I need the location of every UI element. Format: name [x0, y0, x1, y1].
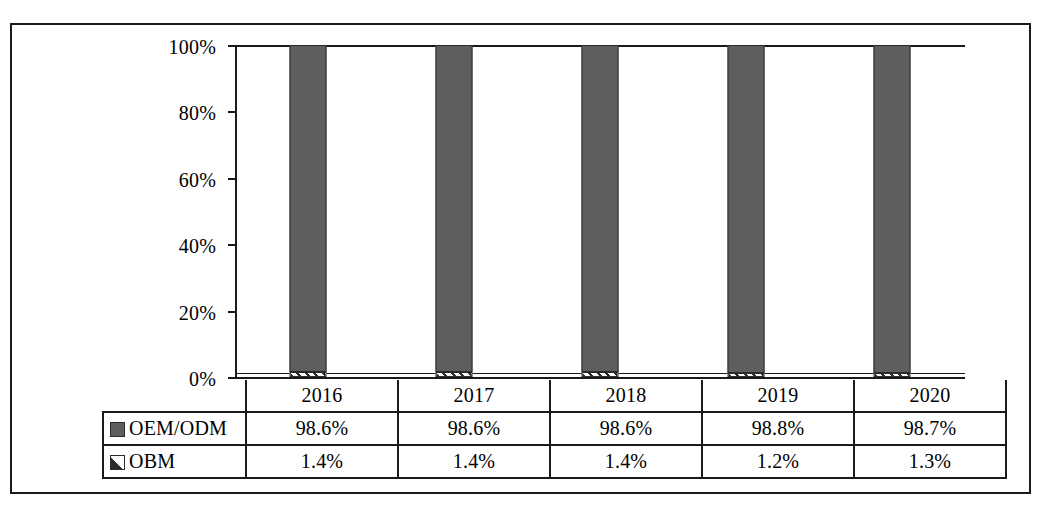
legend-label-oem-odm: OEM/ODM [129, 417, 227, 439]
table-corner-cell [103, 380, 246, 412]
y-tick-label-40: 40% [179, 236, 216, 256]
y-tick-label-60: 60% [179, 170, 216, 190]
legend-item-oem-odm[interactable]: OEM/ODM [103, 412, 246, 445]
bar-stack [436, 45, 473, 377]
cell-oem-2018: 98.6% [550, 412, 702, 445]
cell-oem-2017: 98.6% [398, 412, 550, 445]
bar-stack [874, 45, 911, 377]
y-tick-60: 60% [228, 178, 235, 180]
chart-frame: 100% 80% 60% 40% 20% 0% 2016 2017 2 [10, 23, 1031, 494]
table-year-header-2019: 2019 [702, 380, 854, 412]
plot-area: 100% 80% 60% 40% 20% 0% [235, 45, 965, 377]
bar-column-2020[interactable] [819, 45, 965, 377]
cell-oem-2016: 98.6% [246, 412, 398, 445]
table-row-years: 2016 2017 2018 2019 2020 [103, 380, 1006, 412]
bar-column-2018[interactable] [527, 45, 673, 377]
cell-oem-2020: 98.7% [854, 412, 1006, 445]
bar-segment-oem-odm[interactable] [582, 45, 619, 372]
bar-segment-obm[interactable] [728, 373, 765, 377]
table-row-oem-odm: OEM/ODM 98.6% 98.6% 98.6% 98.8% 98.7% [103, 412, 1006, 445]
cell-obm-2017: 1.4% [398, 445, 550, 478]
y-tick-0: 0% [228, 377, 235, 379]
y-tick-label-100: 100% [169, 37, 216, 57]
legend-item-obm[interactable]: OBM [103, 445, 246, 478]
bar-segment-obm[interactable] [582, 372, 619, 377]
table-year-header-2016: 2016 [246, 380, 398, 412]
bar-segment-oem-odm[interactable] [728, 45, 765, 373]
bar-column-2016[interactable] [235, 45, 381, 377]
bar-stack [728, 45, 765, 377]
cell-obm-2020: 1.3% [854, 445, 1006, 478]
legend-swatch-oem-odm-icon [110, 422, 125, 437]
bar-segment-obm[interactable] [436, 372, 473, 377]
chart-data-table: 2016 2017 2018 2019 2020 OEM/ODM 98.6% 9… [102, 380, 1007, 479]
y-tick-80: 80% [228, 111, 235, 113]
category-axis-line [235, 377, 965, 379]
y-tick-20: 20% [228, 311, 235, 313]
cell-obm-2018: 1.4% [550, 445, 702, 478]
table-year-header-2020: 2020 [854, 380, 1006, 412]
y-tick-40: 40% [228, 244, 235, 246]
cell-obm-2016: 1.4% [246, 445, 398, 478]
bar-column-2019[interactable] [673, 45, 819, 377]
legend-label-obm: OBM [129, 450, 175, 472]
cell-obm-2019: 1.2% [702, 445, 854, 478]
table-year-header-2017: 2017 [398, 380, 550, 412]
y-tick-label-80: 80% [179, 103, 216, 123]
bar-segment-obm[interactable] [874, 373, 911, 377]
legend-swatch-obm-icon [110, 455, 125, 470]
table-year-header-2018: 2018 [550, 380, 702, 412]
bar-stack [290, 45, 327, 377]
bar-stack [582, 45, 619, 377]
y-tick-100: 100% [228, 45, 235, 47]
bar-segment-oem-odm[interactable] [436, 45, 473, 372]
bar-column-2017[interactable] [381, 45, 527, 377]
bar-segment-obm[interactable] [290, 372, 327, 377]
y-tick-label-20: 20% [179, 303, 216, 323]
table-row-obm: OBM 1.4% 1.4% 1.4% 1.2% 1.3% [103, 445, 1006, 478]
bar-segment-oem-odm[interactable] [874, 45, 911, 373]
bar-segment-oem-odm[interactable] [290, 45, 327, 372]
cell-oem-2019: 98.8% [702, 412, 854, 445]
